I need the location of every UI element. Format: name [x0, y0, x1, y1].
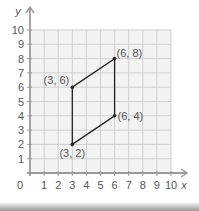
vertex-point	[71, 85, 75, 89]
x-tick-label: 9	[154, 179, 160, 191]
page-shadow	[0, 202, 199, 211]
y-tick-label: 5	[18, 96, 24, 108]
y-axis-label: y	[14, 5, 22, 17]
x-axis-label: x	[180, 179, 187, 191]
y-tick-label: 8	[18, 53, 24, 65]
vertex-label: (3, 6)	[44, 74, 70, 86]
vertex-label: (3, 2)	[59, 147, 85, 159]
y-tick-label: 9	[18, 38, 24, 50]
y-tick-label: 1	[18, 153, 24, 165]
x-tick-label: 1	[41, 179, 47, 191]
x-tick-label: 6	[112, 179, 118, 191]
x-tick-label: 3	[69, 179, 75, 191]
x-tick-label: 5	[97, 179, 103, 191]
x-tick-label: 10	[165, 179, 177, 191]
x-tick-label: 2	[55, 179, 61, 191]
x-tick-label: 7	[126, 179, 132, 191]
vertex-point	[71, 143, 75, 147]
vertex-label: (6, 8)	[117, 47, 143, 59]
y-tick-label: 4	[18, 110, 24, 122]
coordinate-plane-diagram: 12345678910123456789100xy(3, 2)(6, 4)(6,…	[0, 0, 199, 211]
y-tick-label: 2	[18, 138, 24, 150]
vertex-point	[113, 114, 117, 118]
vertex-label: (6, 4)	[118, 110, 144, 122]
coordinate-grid: 12345678910123456789100xy(3, 2)(6, 4)(6,…	[0, 0, 199, 211]
y-tick-label: 10	[12, 24, 24, 36]
x-tick-label: 4	[83, 179, 89, 191]
y-tick-label: 7	[18, 67, 24, 79]
y-tick-label: 3	[18, 124, 24, 136]
origin-label: 0	[17, 179, 23, 191]
x-tick-label: 8	[140, 179, 146, 191]
y-tick-label: 6	[18, 81, 24, 93]
